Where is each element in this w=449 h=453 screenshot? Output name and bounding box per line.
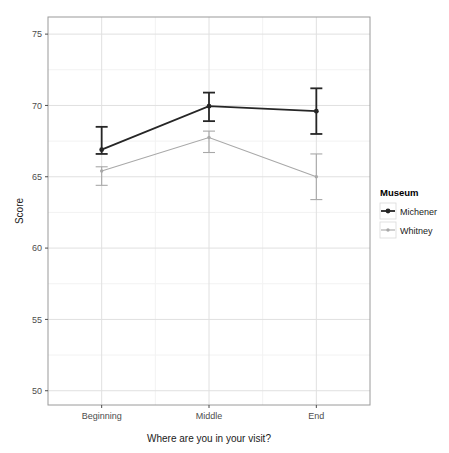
line-chart: 505560657075 BeginningMiddleEnd Score Wh… — [0, 0, 449, 453]
y-tick-label: 60 — [32, 243, 42, 253]
y-tick-label: 65 — [32, 172, 42, 182]
legend-item-label: Michener — [400, 207, 437, 217]
chart-container: 505560657075 BeginningMiddleEnd Score Wh… — [0, 0, 449, 453]
data-point — [207, 136, 210, 139]
legend-item-michener[interactable]: Michener — [380, 203, 437, 219]
x-tick-label: End — [308, 411, 324, 421]
legend-key-marker — [386, 228, 389, 231]
data-point — [314, 109, 319, 114]
y-tick-label: 50 — [32, 386, 42, 396]
data-point — [207, 104, 212, 109]
x-axis-title: Where are you in your visit? — [147, 433, 271, 444]
data-point — [99, 147, 104, 152]
y-tick-label: 70 — [32, 101, 42, 111]
x-tick-label: Middle — [196, 411, 223, 421]
legend-items: MichenerWhitney — [380, 203, 437, 238]
y-tick-label: 75 — [32, 29, 42, 39]
y-tick-label: 55 — [32, 315, 42, 325]
y-axis: 505560657075 — [32, 29, 48, 396]
data-point — [100, 169, 103, 172]
legend-item-whitney[interactable]: Whitney — [380, 222, 433, 238]
legend-key-marker — [386, 209, 391, 214]
y-axis-title: Score — [14, 198, 25, 225]
legend-item-label: Whitney — [400, 226, 433, 236]
legend: Museum MichenerWhitney — [380, 187, 437, 238]
x-axis: BeginningMiddleEnd — [82, 405, 325, 421]
legend-title: Museum — [380, 187, 419, 198]
data-point — [315, 175, 318, 178]
x-tick-label: Beginning — [82, 411, 122, 421]
